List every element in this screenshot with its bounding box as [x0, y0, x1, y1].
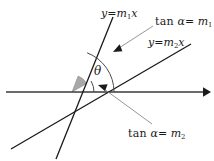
line2-variable: x — [178, 36, 184, 49]
tan1-slope-index: 1 — [208, 21, 212, 29]
arc-angle-m2 — [91, 81, 94, 92]
tan1-angle-symbol: α — [177, 15, 184, 28]
tan2-slope-index: 2 — [181, 133, 185, 141]
tan2-slope: m — [171, 127, 181, 140]
leader-arrowhead-tan-m1-icon — [113, 44, 122, 52]
line1-variable: x — [131, 7, 137, 20]
line1-slope: m — [116, 7, 126, 20]
tan2-angle-symbol: α — [150, 127, 157, 140]
geometry-figure: y=m1x y=m2x tan α= m1 tan α= m2 θ — [0, 0, 214, 161]
x-axis-arrowhead-icon — [203, 87, 211, 97]
label-theta-angle: θ — [94, 65, 101, 77]
tan2-function: tan — [128, 127, 147, 140]
label-tan-m2: tan α= m2 — [128, 128, 185, 140]
line2-slope: m — [163, 36, 173, 49]
tan2-equals: = — [158, 127, 167, 140]
label-line-m1-equation: y=m1x — [101, 8, 137, 20]
label-line-m2-equation: y=m2x — [148, 37, 184, 49]
leader-line-tan-m2 — [104, 89, 152, 124]
tan1-slope: m — [198, 15, 208, 28]
tan1-equals: = — [185, 15, 194, 28]
tan1-function: tan — [155, 15, 174, 28]
label-tan-m1: tan α= m1 — [155, 16, 212, 28]
